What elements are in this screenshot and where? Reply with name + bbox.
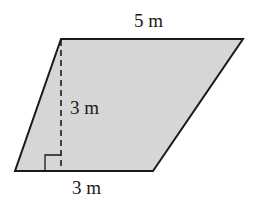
bottom-side-label: 3 m <box>72 177 101 198</box>
parallelogram-shape <box>15 39 243 171</box>
top-side-label: 5 m <box>134 10 163 31</box>
height-label: 3 m <box>70 97 99 118</box>
parallelogram-diagram: 5 m 3 m 3 m <box>0 0 255 205</box>
